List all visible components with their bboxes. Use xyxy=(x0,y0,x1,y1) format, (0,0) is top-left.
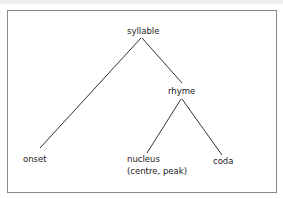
edge-syllable-onset xyxy=(40,38,141,148)
edge-syllable-rhyme xyxy=(142,38,182,83)
edge-rhyme-nucleus xyxy=(147,99,181,153)
node-nucleus: nucleus xyxy=(127,155,160,164)
node-coda: coda xyxy=(213,157,233,166)
node-onset: onset xyxy=(23,155,47,164)
node-rhyme: rhyme xyxy=(168,87,195,96)
edge-rhyme-coda xyxy=(182,99,222,155)
node-nucleus-sublabel: (centre, peak) xyxy=(127,167,187,176)
node-syllable: syllable xyxy=(127,27,159,36)
